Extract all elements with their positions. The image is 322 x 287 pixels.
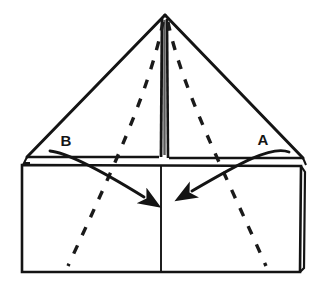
origami-figure-svg: B A xyxy=(0,0,322,287)
slit-right-line xyxy=(167,19,168,158)
slit-left-line xyxy=(161,19,162,157)
lower-rectangle-body xyxy=(22,165,305,272)
center-vertical-slit xyxy=(161,19,168,158)
label-b: B xyxy=(61,132,72,149)
origami-diagram: B A xyxy=(0,0,322,287)
label-a: A xyxy=(258,131,269,148)
